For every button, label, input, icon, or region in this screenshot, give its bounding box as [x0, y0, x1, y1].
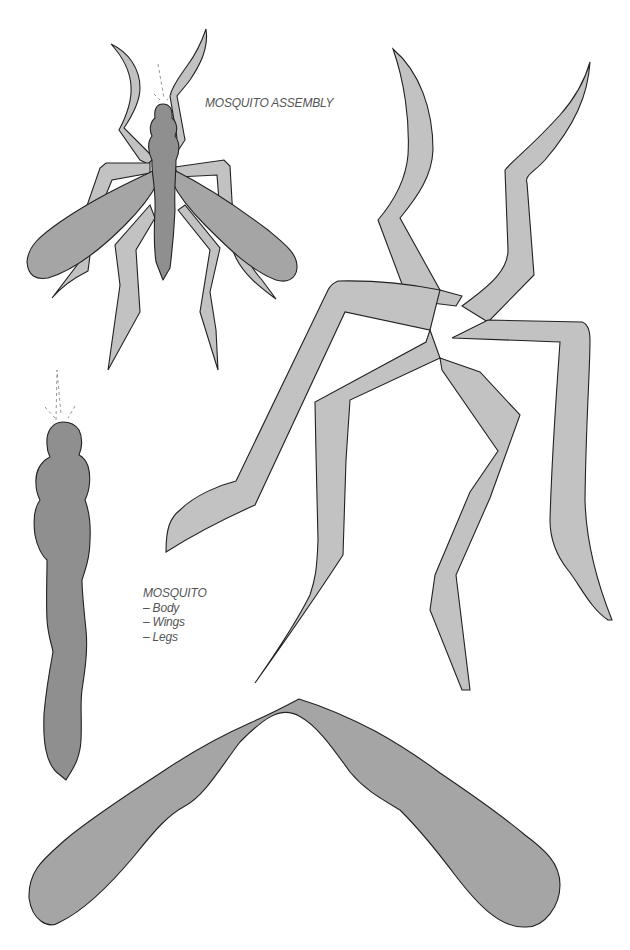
body-antenna-left	[45, 407, 55, 418]
body-antenna-right	[68, 406, 75, 418]
legs-front-leg-left	[378, 49, 462, 306]
parts-list: MOSQUITO – Body – Wings – Legs	[143, 586, 207, 644]
body-cutout	[34, 370, 90, 780]
wings-cutout	[29, 699, 560, 927]
assembly-title: MOSQUITO ASSEMBLY	[205, 96, 333, 111]
body-antenna-center	[56, 370, 61, 420]
parts-item-body: – Body	[143, 601, 207, 616]
assembled-mosquito-illustration	[27, 29, 297, 370]
assembled-antenna-center	[158, 64, 164, 98]
assembled-body	[149, 104, 179, 280]
assembled-antenna-left	[154, 94, 160, 100]
legs-cutout	[166, 49, 612, 690]
template-canvas	[0, 0, 630, 950]
wings-piece	[29, 699, 560, 927]
legs-mid-leg-right	[452, 320, 612, 620]
body-piece	[34, 422, 90, 780]
legs-front-leg-right	[462, 62, 590, 322]
parts-item-wings: – Wings	[143, 615, 207, 630]
legs-hind-leg-right	[430, 358, 520, 690]
parts-heading: MOSQUITO	[143, 586, 207, 601]
assembled-front-leg-left	[111, 44, 154, 164]
parts-item-legs: – Legs	[143, 630, 207, 645]
